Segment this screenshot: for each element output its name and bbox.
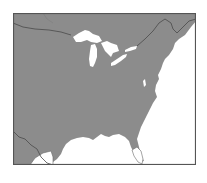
- eastern-us-map: [13, 13, 196, 165]
- map-frame: [13, 13, 196, 165]
